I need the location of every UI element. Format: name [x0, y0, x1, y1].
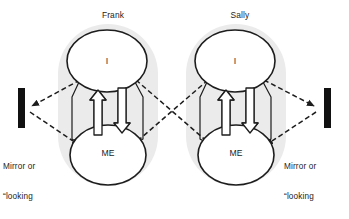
- mirror-left-bar: [18, 88, 25, 128]
- frank-person-label: Frank: [78, 11, 148, 21]
- sally-me-label: ME: [210, 148, 262, 158]
- sally-person-label: Sally: [205, 11, 275, 21]
- mirror-left-label-line-2: “looking: [3, 192, 63, 202]
- mirror-right-bar: [324, 88, 331, 128]
- sally-i-label: I: [206, 56, 264, 66]
- mirror-left-label: Mirror or “looking glass”: [3, 142, 63, 219]
- frank-i-label: I: [78, 56, 136, 66]
- looking-glass-self-diagram: Frank Sally I ME I ME Mirror or “looking…: [0, 0, 349, 219]
- mirror-right-label-line-2: “looking: [284, 192, 346, 202]
- frank-me-label: ME: [82, 148, 134, 158]
- mirror-left-label-line-1: Mirror or: [3, 162, 63, 172]
- mirror-right-label-line-1: Mirror or: [284, 162, 346, 172]
- mirror-right-label: Mirror or “looking glass”: [284, 142, 346, 219]
